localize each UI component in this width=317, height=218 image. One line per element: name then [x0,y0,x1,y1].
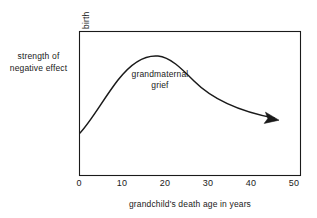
x-tick-label-10: 10 [112,178,132,188]
x-tick-label-20: 20 [155,178,175,188]
x-tick-label-40: 40 [241,178,261,188]
figure-container: birth strength of negative effect 0 10 2… [0,0,317,218]
x-tick-label-50: 50 [284,178,304,188]
grandmaternal-grief-curve [80,56,274,133]
x-tick-label-0: 0 [69,178,89,188]
curve-annotation-line-2: grief [151,80,168,90]
y-axis-label: strength of negative effect [2,51,75,74]
curve-annotation-line-1: grandmaternal [132,69,189,79]
curve-annotation: grandmaternal grief [113,69,207,91]
x-axis-label: grandchild's death age in years [79,199,301,209]
y-axis-top-marker-text: birth [82,12,91,29]
curve-arrowhead-icon [264,112,279,123]
y-axis-top-marker: birth [70,2,96,30]
plot-frame [80,32,301,176]
x-tick-label-30: 30 [198,178,218,188]
